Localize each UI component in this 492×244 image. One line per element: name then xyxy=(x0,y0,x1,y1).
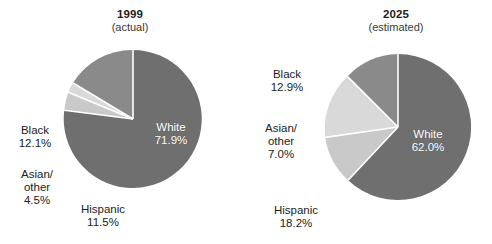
pie-1999 xyxy=(62,48,204,190)
callout-name-line2: other xyxy=(6,181,68,194)
callout-percent: 12.9% xyxy=(256,81,318,94)
chart-title-year: 2025 xyxy=(346,8,446,21)
slice-label-name: White xyxy=(397,128,459,141)
callout-percent: 18.2% xyxy=(246,217,346,230)
callout-asian-other-2025: Asian/ other 7.0% xyxy=(248,122,314,161)
callout-asian-other-1999: Asian/ other 4.5% xyxy=(6,168,68,207)
callout-name-line1: Asian/ xyxy=(6,168,68,181)
callout-name-line2: other xyxy=(248,135,314,148)
pie-label-white-1999: White 71.9% xyxy=(140,121,202,147)
callout-percent: 4.5% xyxy=(6,194,68,207)
pie-1999-svg xyxy=(62,48,204,190)
slice-label-name: White xyxy=(140,121,202,134)
callout-percent: 7.0% xyxy=(248,148,314,161)
pie-2025 xyxy=(323,52,473,202)
chart-panel-2025: 2025 (estimated) W xyxy=(246,0,492,244)
callout-name-line1: Asian/ xyxy=(248,122,314,135)
callout-name: Black xyxy=(256,68,318,81)
chart-title-1999: 1999 (actual) xyxy=(85,8,175,33)
callout-percent: 12.1% xyxy=(6,137,64,150)
chart-panel-1999: 1999 (actual) xyxy=(0,0,246,244)
callout-name: Hispanic xyxy=(246,204,346,217)
callout-black-1999: Black 12.1% xyxy=(6,124,64,150)
callout-percent: 11.5% xyxy=(62,216,144,229)
slice-label-percent: 62.0% xyxy=(397,141,459,154)
callout-name: Black xyxy=(6,124,64,137)
callout-name: Hispanic xyxy=(62,203,144,216)
pie-chart-figure: 1999 (actual) xyxy=(0,0,492,244)
callout-black-2025: Black 12.9% xyxy=(256,68,318,94)
pie-2025-svg xyxy=(323,52,473,202)
callout-hispanic-2025: Hispanic 18.2% xyxy=(246,204,346,230)
chart-title-qualifier: (estimated) xyxy=(346,21,446,33)
chart-title-2025: 2025 (estimated) xyxy=(346,8,446,33)
slice-label-percent: 71.9% xyxy=(140,134,202,147)
pie-label-white-2025: White 62.0% xyxy=(397,128,459,154)
chart-title-qualifier: (actual) xyxy=(85,21,175,33)
chart-title-year: 1999 xyxy=(85,8,175,21)
callout-hispanic-1999: Hispanic 11.5% xyxy=(62,203,144,229)
